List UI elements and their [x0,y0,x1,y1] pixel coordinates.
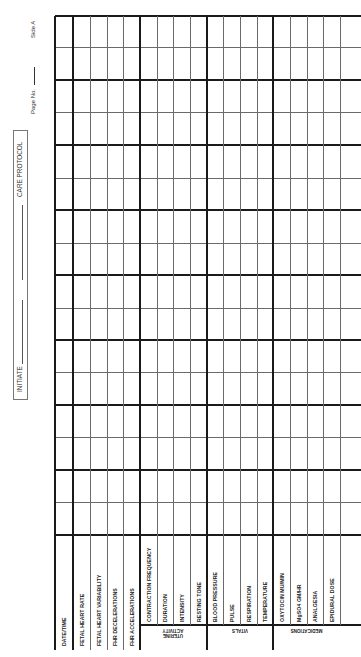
entry-cell[interactable] [55,16,73,47]
entry-cell[interactable] [257,437,273,470]
entry-cell[interactable] [90,210,107,243]
entry-cell[interactable] [73,437,90,470]
entry-cell[interactable] [123,243,140,275]
entry-cell[interactable] [190,437,207,470]
entry-cell[interactable] [173,470,190,502]
entry-cell[interactable] [123,145,140,178]
entry-cell[interactable] [257,178,273,210]
entry-cell[interactable] [290,178,307,210]
entry-cell[interactable] [157,80,173,112]
entry-cell[interactable] [273,178,290,210]
entry-cell[interactable] [257,340,273,372]
entry-cell[interactable] [123,112,140,145]
entry-cell[interactable] [223,210,240,243]
entry-cell[interactable] [223,372,240,405]
entry-cell[interactable] [73,372,90,405]
entry-cell[interactable] [240,308,257,340]
entry-cell[interactable] [307,80,323,112]
entry-cell[interactable] [157,405,173,437]
entry-cell[interactable] [323,112,340,145]
entry-cell[interactable] [240,47,257,80]
entry-cell[interactable] [157,340,173,372]
entry-cell[interactable] [55,372,73,405]
entry-cell[interactable] [273,340,290,372]
entry-cell[interactable] [173,243,190,275]
entry-cell[interactable] [340,405,355,437]
entry-cell[interactable] [107,145,123,178]
entry-cell[interactable] [323,340,340,372]
entry-cell[interactable] [90,80,107,112]
entry-cell[interactable] [173,145,190,178]
entry-cell[interactable] [107,243,123,275]
entry-cell[interactable] [157,210,173,243]
entry-cell[interactable] [107,80,123,112]
entry-cell[interactable] [223,308,240,340]
entry-cell[interactable] [190,243,207,275]
entry-cell[interactable] [240,437,257,470]
entry-cell[interactable] [257,372,273,405]
entry-cell[interactable] [273,210,290,243]
entry-cell[interactable] [90,243,107,275]
entry-cell[interactable] [323,308,340,340]
entry-cell[interactable] [290,16,307,47]
entry-cell[interactable] [55,112,73,145]
entry-cell[interactable] [55,275,73,308]
entry-cell[interactable] [173,47,190,80]
entry-cell[interactable] [73,340,90,372]
entry-cell[interactable] [123,340,140,372]
entry-cell[interactable] [257,80,273,112]
entry-cell[interactable] [290,243,307,275]
entry-cell[interactable] [307,178,323,210]
entry-cell[interactable] [90,405,107,437]
entry-cell[interactable] [223,178,240,210]
entry-cell[interactable] [257,145,273,178]
entry-cell[interactable] [190,470,207,502]
entry-cell[interactable] [73,16,90,47]
entry-cell[interactable] [307,502,323,535]
entry-cell[interactable] [123,405,140,437]
entry-cell[interactable] [157,145,173,178]
entry-cell[interactable] [107,210,123,243]
entry-cell[interactable] [340,502,355,535]
entry-cell[interactable] [90,470,107,502]
entry-cell[interactable] [123,275,140,308]
entry-cell[interactable] [107,372,123,405]
entry-cell[interactable] [173,340,190,372]
entry-cell[interactable] [257,16,273,47]
entry-cell[interactable] [240,405,257,437]
entry-cell[interactable] [257,502,273,535]
entry-cell[interactable] [207,145,223,178]
entry-cell[interactable] [157,16,173,47]
entry-cell[interactable] [207,437,223,470]
entry-cell[interactable] [173,210,190,243]
entry-cell[interactable] [140,372,157,405]
entry-cell[interactable] [173,178,190,210]
entry-cell[interactable] [55,243,73,275]
entry-cell[interactable] [157,47,173,80]
entry-cell[interactable] [73,243,90,275]
entry-cell[interactable] [123,470,140,502]
entry-cell[interactable] [273,243,290,275]
entry-cell[interactable] [323,502,340,535]
entry-cell[interactable] [157,470,173,502]
entry-cell[interactable] [240,275,257,308]
entry-cell[interactable] [257,243,273,275]
entry-cell[interactable] [273,145,290,178]
entry-cell[interactable] [190,372,207,405]
entry-cell[interactable] [107,178,123,210]
entry-cell[interactable] [90,178,107,210]
entry-cell[interactable] [173,308,190,340]
entry-cell[interactable] [223,80,240,112]
entry-cell[interactable] [107,308,123,340]
entry-cell[interactable] [340,112,355,145]
entry-cell[interactable] [140,308,157,340]
entry-cell[interactable] [207,112,223,145]
entry-cell[interactable] [223,275,240,308]
entry-cell[interactable] [257,470,273,502]
entry-cell[interactable] [307,112,323,145]
entry-cell[interactable] [140,145,157,178]
entry-cell[interactable] [273,308,290,340]
entry-cell[interactable] [90,308,107,340]
entry-cell[interactable] [173,16,190,47]
entry-cell[interactable] [73,405,90,437]
